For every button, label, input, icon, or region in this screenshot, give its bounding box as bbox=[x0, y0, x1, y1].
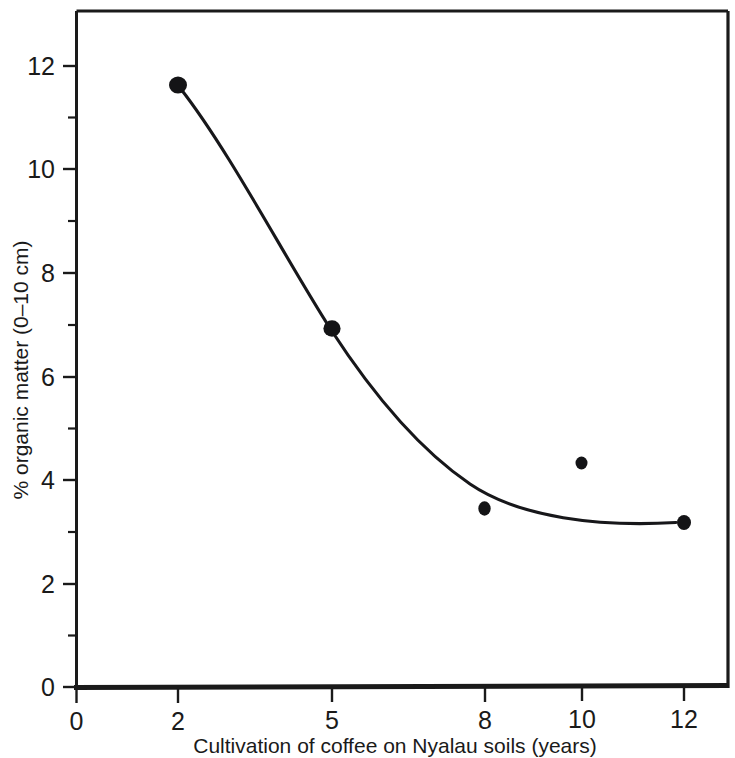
y-axis-label-8: 8 bbox=[41, 259, 55, 287]
x-axis-label-0: 0 bbox=[70, 707, 84, 735]
data-point-year-12 bbox=[677, 515, 691, 530]
data-point-year-8 bbox=[478, 501, 490, 515]
data-point-year-2 bbox=[169, 76, 187, 93]
chart-background bbox=[0, 0, 735, 758]
x-axis-label-12: 12 bbox=[670, 705, 698, 733]
y-axis-label-4: 4 bbox=[41, 466, 55, 494]
data-point-year-5 bbox=[323, 320, 340, 336]
y-axis-label-12: 12 bbox=[27, 52, 55, 80]
y-axis-title: % organic matter (0–10 cm) bbox=[9, 240, 32, 499]
y-axis-label-10: 10 bbox=[27, 155, 55, 183]
y-axis-label-0: 0 bbox=[41, 673, 55, 701]
y-axis-label-2: 2 bbox=[41, 570, 55, 598]
x-axis-title: Cultivation of coffee on Nyalau soils (y… bbox=[193, 734, 596, 757]
data-point-year-10 bbox=[576, 457, 588, 470]
organic-matter-scatter-chart: 12 10 8 6 4 2 0 0 2 5 8 10 12 bbox=[0, 0, 735, 758]
x-axis-label-2: 2 bbox=[171, 707, 185, 735]
y-axis-label-6: 6 bbox=[41, 363, 55, 391]
x-axis-label-5: 5 bbox=[325, 706, 339, 734]
x-axis-label-10: 10 bbox=[568, 705, 596, 733]
x-axis-label-8: 8 bbox=[478, 706, 492, 734]
x-axis-line bbox=[74, 686, 728, 688]
figure-container: 12 10 8 6 4 2 0 0 2 5 8 10 12 bbox=[0, 0, 735, 758]
